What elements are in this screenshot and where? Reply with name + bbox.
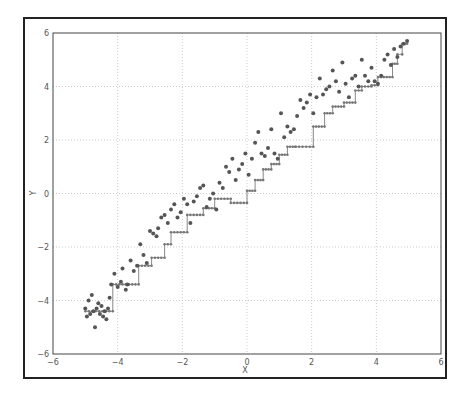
data-point — [121, 266, 125, 270]
fit-marker — [267, 168, 270, 171]
fit-marker — [211, 207, 214, 210]
data-point — [363, 74, 367, 78]
fit-marker — [270, 163, 273, 166]
fit-marker — [340, 105, 343, 108]
fit-marker — [367, 85, 370, 88]
fit-marker — [354, 101, 357, 104]
data-point — [334, 79, 338, 83]
fit-marker — [346, 101, 349, 104]
fit-marker — [301, 145, 304, 148]
data-point — [386, 52, 390, 56]
data-point — [85, 315, 89, 319]
data-point — [237, 167, 241, 171]
data-point — [103, 309, 107, 313]
x-tick-label: 2 — [309, 358, 314, 367]
fit-marker — [326, 112, 329, 115]
data-point — [90, 293, 94, 297]
data-point — [145, 261, 149, 265]
data-point — [166, 221, 170, 225]
fit-marker — [230, 198, 233, 201]
fit-marker — [278, 163, 281, 166]
data-point — [129, 258, 133, 262]
fit-marker — [305, 145, 308, 148]
fit-marker — [275, 163, 278, 166]
fit-marker — [385, 76, 388, 79]
fit-marker — [377, 76, 380, 79]
fit-marker — [179, 231, 182, 234]
fit-marker — [248, 190, 251, 193]
data-point — [93, 325, 97, 329]
fit-marker — [154, 256, 157, 259]
fit-marker — [157, 256, 160, 259]
fit-marker — [131, 283, 134, 286]
fit-marker — [223, 198, 226, 201]
fit-marker — [243, 202, 246, 205]
fit-marker — [246, 202, 249, 205]
data-point — [182, 197, 186, 201]
fit-marker — [331, 112, 334, 115]
fit-marker — [220, 198, 223, 201]
data-point — [124, 288, 128, 292]
data-point — [142, 253, 146, 257]
data-point — [247, 173, 251, 177]
fit-marker — [213, 198, 216, 201]
data-point — [138, 242, 142, 246]
data-point — [308, 93, 312, 97]
fit-marker — [163, 256, 166, 259]
data-point — [188, 221, 192, 225]
fit-marker — [254, 190, 257, 193]
fit-marker — [262, 168, 265, 171]
fit-marker — [323, 112, 326, 115]
data-point — [172, 202, 176, 206]
fit-marker — [337, 105, 340, 108]
data-point — [250, 157, 254, 161]
data-point — [337, 90, 341, 94]
fit-marker — [236, 202, 239, 205]
y-tick-label: 6 — [44, 29, 49, 38]
fit-marker — [137, 283, 140, 286]
data-point — [98, 312, 102, 316]
y-tick-label: 2 — [44, 136, 49, 145]
fit-marker — [308, 145, 311, 148]
data-point — [273, 151, 277, 155]
fit-marker — [257, 179, 260, 182]
data-point — [155, 234, 159, 238]
fit-marker — [348, 101, 351, 104]
fit-marker — [364, 85, 367, 88]
data-point — [148, 229, 152, 233]
data-point — [366, 79, 370, 83]
data-point — [135, 264, 139, 268]
fit-marker — [334, 105, 337, 108]
fit-marker — [373, 84, 376, 87]
data-point — [376, 82, 380, 86]
data-point — [266, 146, 270, 150]
fit-marker — [163, 243, 166, 246]
x-tick-label: 4 — [374, 358, 379, 367]
data-point — [370, 66, 374, 70]
fit-marker — [196, 214, 199, 217]
data-point — [106, 307, 110, 311]
data-point — [201, 184, 205, 188]
fit-marker — [150, 256, 153, 259]
data-point — [256, 130, 260, 134]
fit-marker — [315, 125, 318, 128]
data-point — [214, 208, 218, 212]
data-point — [218, 181, 222, 185]
data-point — [269, 127, 273, 131]
data-point — [324, 87, 328, 91]
data-point — [100, 304, 104, 308]
data-point — [311, 111, 315, 115]
fit-marker — [343, 105, 346, 108]
fit-marker — [394, 63, 397, 66]
data-point — [198, 186, 202, 190]
fit-marker — [294, 145, 297, 148]
data-point — [192, 200, 196, 204]
fit-marker — [361, 89, 364, 92]
data-point — [221, 186, 225, 190]
data-point — [282, 135, 286, 139]
fit-marker — [323, 125, 326, 128]
x-tick-label: −4 — [112, 358, 124, 367]
data-point — [205, 205, 209, 209]
data-point — [234, 178, 238, 182]
data-point — [91, 309, 95, 313]
